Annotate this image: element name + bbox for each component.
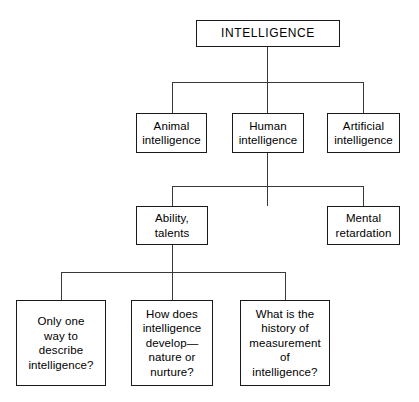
node-human-intelligence[interactable]: Human intelligence (232, 113, 304, 153)
connector-drop-artificial (363, 82, 364, 113)
node-ability-talents-label: Ability, talents (153, 211, 192, 240)
node-animal-intelligence-label: Animal intelligence (140, 119, 203, 148)
connector-drop-q1 (61, 272, 62, 300)
node-question-history-measurement[interactable]: What is the history of measurement of in… (240, 300, 330, 386)
connector-drop-animal (172, 82, 173, 113)
connector-bus-level4 (61, 272, 286, 273)
node-artificial-intelligence[interactable]: Artificial intelligence (327, 113, 400, 153)
connector-root-stem (267, 46, 268, 113)
node-intelligence[interactable]: INTELLIGENCE (196, 20, 340, 47)
node-question-history-measurement-label: What is the history of measurement of in… (247, 307, 322, 380)
node-question-nature-nurture-label: How does intelligence develop— nature or… (141, 307, 204, 380)
connector-human-stem (267, 152, 268, 206)
node-mental-retardation[interactable]: Mental retardation (327, 206, 400, 245)
node-mental-retardation-label: Mental retardation (333, 211, 393, 240)
node-ability-talents[interactable]: Ability, talents (136, 206, 208, 245)
node-question-nature-nurture[interactable]: How does intelligence develop— nature or… (131, 300, 213, 386)
node-question-describe-intelligence-label: Only one way to describe intelligence? (26, 314, 95, 372)
node-artificial-intelligence-label: Artificial intelligence (332, 119, 395, 148)
node-question-describe-intelligence[interactable]: Only one way to describe intelligence? (16, 300, 106, 386)
node-human-intelligence-label: Human intelligence (237, 119, 300, 148)
connector-bus-level2 (172, 82, 364, 83)
node-intelligence-label: INTELLIGENCE (219, 26, 317, 41)
connector-bus-level3 (172, 186, 364, 187)
diagram-canvas: INTELLIGENCE Animal intelligence Human i… (0, 0, 419, 402)
connector-drop-mental (363, 186, 364, 206)
connector-drop-ability (172, 186, 173, 206)
connector-drop-q3 (285, 272, 286, 300)
node-animal-intelligence[interactable]: Animal intelligence (136, 113, 207, 153)
